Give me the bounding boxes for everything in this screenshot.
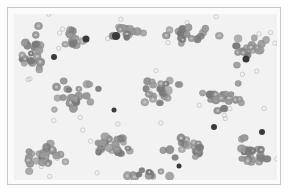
cell-pallor [55,85,58,88]
red-blood-cell [263,36,270,43]
ghost-cell [52,118,56,122]
red-blood-cell [39,152,46,158]
red-blood-cell [101,133,110,141]
white-blood-cell [51,54,57,60]
red-blood-cell [67,32,74,38]
ghost-cell [116,122,120,126]
red-blood-cell [118,135,126,142]
red-blood-cell [25,168,33,175]
cell-pallor [160,83,162,85]
ghost-cell [48,174,52,178]
cell-pallor [216,109,219,112]
ghost-cell [57,31,61,35]
cell-pallor [27,159,30,162]
cell-pallor [180,137,183,140]
red-blood-cell [149,82,156,89]
ghost-cell [197,103,201,107]
ghost-cell [106,36,110,40]
cell-pallor [181,148,184,151]
red-blood-cell [66,87,72,92]
red-blood-cell [86,81,93,87]
ghost-cell [240,72,244,76]
red-blood-cell [202,25,209,32]
red-blood-cell [166,172,174,180]
red-blood-cell [54,95,61,102]
red-blood-cell [87,99,94,106]
red-blood-cell [112,141,120,148]
red-blood-cell [197,33,205,39]
red-blood-cell [156,100,163,106]
red-blood-cell [97,145,105,153]
ghost-cell [88,139,92,143]
cell-pallor [148,171,150,173]
ghost-cell [262,106,266,110]
cell-pallor [165,83,167,85]
red-blood-cell [225,99,232,104]
white-blood-cell [177,164,182,169]
red-blood-cell [36,67,43,74]
cell-pallor [39,60,42,63]
cell-field [14,14,277,180]
cell-pallor [218,34,221,37]
red-blood-cell [235,80,241,86]
ghost-cell [95,171,99,175]
red-blood-cell [241,135,249,141]
ghost-cell [257,32,261,36]
cell-pallor [64,43,67,46]
red-blood-cell [234,35,242,43]
cell-pallor [160,170,162,172]
ghost-cell [47,14,51,16]
cell-pallor [64,161,66,163]
red-blood-cell [232,43,240,50]
red-blood-cell [172,155,179,161]
cell-pallor [168,29,170,31]
red-blood-cell [32,41,40,47]
ghost-cell [255,69,259,73]
red-blood-cell [228,92,234,97]
red-blood-cell [233,62,240,68]
cell-pallor [143,101,146,104]
cell-pallor [237,51,239,53]
cell-pallor [35,34,37,36]
red-blood-cell [136,172,142,178]
red-blood-cell [60,78,67,85]
red-blood-cell [255,48,262,54]
ghost-cell [154,69,158,73]
cell-pallor [215,93,217,95]
red-blood-cell [263,156,271,163]
red-blood-cell [238,100,245,106]
cell-pallor [185,138,187,140]
red-blood-cell [166,146,175,154]
cell-pallor [190,37,192,39]
ghost-cell [228,107,232,111]
cell-pallor [220,97,223,100]
white-blood-cell [211,124,217,130]
red-blood-cell [21,60,27,66]
red-blood-cell [83,92,91,99]
ghost-cell [273,41,277,45]
red-blood-cell [177,30,184,37]
red-blood-cell [195,144,203,151]
cell-pallor [50,148,53,151]
red-blood-cell [164,86,172,94]
cell-pallor [250,46,252,48]
white-blood-cell [83,36,90,43]
red-blood-cell [124,35,130,41]
cell-pallor [126,174,129,177]
cell-pallor [47,163,49,165]
cell-pallor [152,98,155,101]
ghost-cell [61,27,65,31]
cell-pallor [165,34,168,37]
ghost-cell [159,121,163,125]
cell-pallor [127,147,129,149]
cell-pallor [119,28,121,30]
cell-pallor [182,39,184,41]
white-blood-cell [112,108,117,113]
blood-smear-micrograph [14,14,277,180]
ghost-cell [78,115,82,119]
red-blood-cell [199,90,205,96]
white-blood-cell [112,32,120,40]
cell-pallor [36,55,39,58]
red-blood-cell [95,86,101,92]
ghost-cell [119,17,123,21]
